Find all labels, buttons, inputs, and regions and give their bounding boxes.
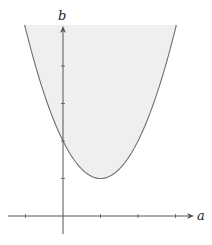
- x-axis: a: [8, 208, 205, 223]
- parabola-region-diagram: a b: [0, 0, 212, 245]
- x-axis-label: a: [197, 208, 205, 223]
- y-axis-label: b: [58, 8, 66, 23]
